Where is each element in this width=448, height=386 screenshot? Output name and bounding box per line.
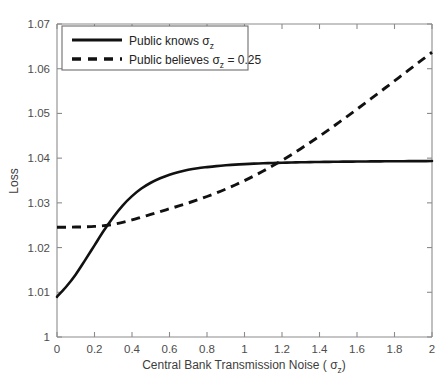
- x-tick-label: 1.8: [387, 343, 403, 355]
- y-tick-label: 1.05: [28, 107, 50, 119]
- loss-vs-noise-chart: 11.011.021.031.041.051.061.07 00.20.40.6…: [0, 0, 448, 386]
- x-tick-label: 0.2: [87, 343, 103, 355]
- y-axis-title: Loss: [7, 168, 21, 193]
- chart-legend: Public knows σz Public believes σz = 0.2…: [62, 26, 261, 70]
- chart-figure: 11.011.021.031.041.051.061.07 00.20.40.6…: [0, 0, 448, 386]
- y-tick-label: 1.04: [28, 152, 51, 164]
- x-tick-label: 1.2: [274, 343, 290, 355]
- x-tick-label: 1: [241, 343, 247, 355]
- y-tick-label: 1.06: [28, 63, 50, 75]
- x-tick-label: 0.8: [199, 343, 215, 355]
- data-series: [57, 52, 432, 297]
- x-tick-label: 0.4: [124, 343, 141, 355]
- x-tick-label: 1.4: [312, 343, 329, 355]
- x-tick-label: 0.6: [162, 343, 178, 355]
- y-tick-label: 1.07: [28, 18, 50, 30]
- x-axis-title: Central Bank Transmission Noise ( σz): [142, 358, 346, 375]
- y-tick-label: 1.01: [28, 286, 50, 298]
- x-tick-label: 0: [54, 343, 60, 355]
- series-public-believes: [57, 52, 432, 227]
- series-public-knows: [57, 161, 432, 297]
- y-tick-label: 1.02: [28, 242, 50, 254]
- x-axis-ticks: 00.20.40.60.811.21.41.61.82: [54, 24, 435, 355]
- x-tick-label: 2: [429, 343, 435, 355]
- y-tick-label: 1.03: [28, 197, 50, 209]
- x-tick-label: 1.6: [349, 343, 365, 355]
- y-tick-label: 1: [44, 331, 50, 343]
